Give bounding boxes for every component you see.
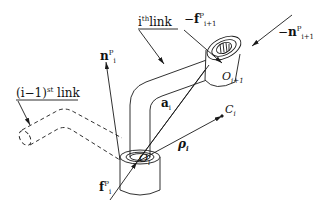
label-origin-next: Oi+1 [222,71,244,82]
label-neg-force-next: −fPi+1 [184,13,217,25]
label-center-of-mass: Ci [225,104,236,115]
label-neg-moment-next: −nPi+1 [278,26,314,38]
label-origin-i: Oi [139,153,150,164]
previous-link-dashed [17,109,122,160]
label-vector-rho-i: ρi [178,138,189,150]
label-previous-link: (i−1)st link [16,87,80,99]
label-ith-link: ithlink [138,16,172,28]
label-moment-n-i: nPi [100,50,116,62]
label-vector-a-i: ai [161,97,171,109]
label-force-f-i: fPi [99,181,111,193]
